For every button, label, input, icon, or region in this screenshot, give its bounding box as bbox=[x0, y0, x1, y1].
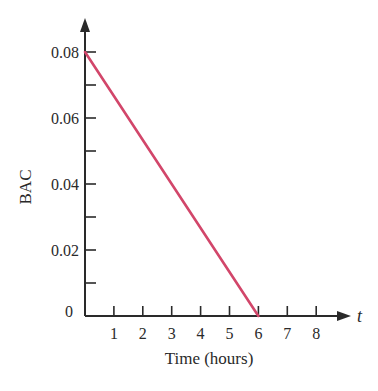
x-tick-label: 7 bbox=[283, 325, 291, 342]
x-tick-label: 4 bbox=[197, 325, 205, 342]
x-tick-label: 3 bbox=[168, 325, 176, 342]
y-axis-ticks: 00.020.040.060.08 bbox=[51, 44, 96, 320]
x-tick-label: 8 bbox=[312, 325, 320, 342]
y-tick-label: 0.06 bbox=[51, 110, 79, 127]
y-axis-arrow-icon bbox=[80, 18, 90, 32]
y-tick-label: 0.08 bbox=[51, 44, 79, 61]
x-variable-label: t bbox=[357, 306, 363, 326]
y-axis-title: BAC bbox=[16, 170, 35, 205]
x-tick-label: 5 bbox=[226, 325, 234, 342]
x-axis-title: Time (hours) bbox=[165, 349, 254, 368]
y-tick-label: 0.04 bbox=[51, 176, 79, 193]
y-tick-label: 0.02 bbox=[51, 242, 79, 259]
y-tick-label: 0 bbox=[65, 303, 73, 320]
x-axis-arrow-icon bbox=[337, 311, 351, 321]
x-tick-label: 1 bbox=[110, 325, 118, 342]
bac-chart: 00.020.040.060.08 12345678 t Time (hours… bbox=[0, 0, 378, 391]
bac-line bbox=[85, 52, 258, 316]
x-tick-label: 6 bbox=[254, 325, 262, 342]
x-tick-label: 2 bbox=[139, 325, 147, 342]
x-axis-ticks: 12345678 bbox=[110, 306, 320, 342]
